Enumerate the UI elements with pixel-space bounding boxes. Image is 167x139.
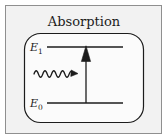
lower-energy-level-label-subscript: 0 [38, 103, 43, 112]
absorption-energy-level-figure: Absorption E1 E0 [0, 0, 167, 139]
figure-title: Absorption [47, 14, 121, 29]
upper-energy-level-label-subscript: 1 [38, 47, 43, 56]
upper-energy-level-label-base: E [29, 41, 38, 54]
diagram-canvas: Absorption E1 E0 [0, 0, 167, 139]
lower-energy-level-label-base: E [29, 97, 38, 110]
